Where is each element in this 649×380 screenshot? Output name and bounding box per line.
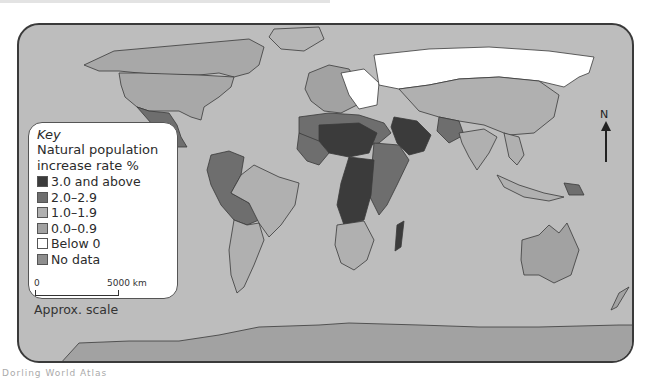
- region-indonesia: [497, 175, 564, 201]
- region-se-asia: [504, 133, 524, 165]
- region-madagascar: [395, 221, 404, 251]
- region-australia: [521, 223, 579, 283]
- swatch-2-to-2-9-icon: [37, 192, 48, 203]
- page-top-rule: [0, 0, 330, 3]
- north-label: N: [600, 108, 608, 121]
- map-legend: Key Natural population increase rate % 3…: [28, 122, 178, 299]
- region-usa: [119, 73, 234, 120]
- region-central-africa: [337, 157, 374, 225]
- legend-item-label: No data: [51, 252, 100, 268]
- region-canada: [84, 39, 264, 77]
- legend-item-label: 0.0–0.9: [51, 221, 97, 237]
- legend-item-label: 3.0 and above: [51, 174, 141, 190]
- region-east-africa: [369, 143, 409, 215]
- legend-subtitle-line1: Natural population: [37, 142, 169, 158]
- scale-start-label: 0: [34, 278, 40, 288]
- region-antarctica: [59, 323, 634, 363]
- world-map: Key Natural population increase rate % 3…: [17, 23, 634, 363]
- legend-item-label: Below 0: [51, 236, 101, 252]
- legend-item-label: 2.0–2.9: [51, 190, 97, 206]
- legend-item-below-0: Below 0: [37, 236, 169, 252]
- region-central-asia: [399, 77, 559, 135]
- legend-subtitle-line2: increase rate %: [37, 158, 169, 174]
- legend-item-label: 1.0–1.9: [51, 205, 97, 221]
- region-southern-africa: [335, 221, 374, 270]
- legend-item-1-to-1-9: 1.0–1.9: [37, 205, 169, 221]
- region-greenland: [269, 27, 324, 51]
- north-arrow: N: [597, 108, 617, 168]
- legend-title: Key: [37, 127, 169, 142]
- legend-item-2-to-2-9: 2.0–2.9: [37, 190, 169, 206]
- swatch-1-to-1-9-icon: [37, 207, 48, 218]
- swatch-0-to-0-9-icon: [37, 223, 48, 234]
- region-new-zealand: [611, 287, 629, 310]
- scale-end-label: 5000 km: [107, 278, 147, 288]
- swatch-no-data-icon: [37, 254, 48, 265]
- legend-item-no-data: No data: [37, 252, 169, 268]
- legend-item-0-to-0-9: 0.0–0.9: [37, 221, 169, 237]
- scale-caption: Approx. scale: [34, 302, 118, 317]
- scale-bar-line: [35, 290, 119, 296]
- legend-item-3-plus: 3.0 and above: [37, 174, 169, 190]
- swatch-3-plus-icon: [37, 176, 48, 187]
- region-southern-cone: [229, 220, 264, 293]
- scale-bar: 0 5000 km Approx. scale: [34, 278, 154, 324]
- region-india: [459, 129, 497, 170]
- north-arrow-shaft-icon: [605, 128, 607, 162]
- swatch-below-0-icon: [37, 238, 48, 249]
- footer-text: Dorling World Atlas: [2, 368, 107, 378]
- region-png: [564, 183, 584, 195]
